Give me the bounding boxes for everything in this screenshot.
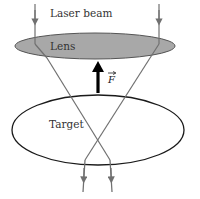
target-ellipse	[12, 95, 184, 165]
force-arrow	[92, 61, 104, 93]
laser-beam-label: Laser beam	[50, 7, 112, 19]
lens-label: Lens	[50, 40, 75, 52]
lens-ellipse	[15, 33, 175, 59]
target-label: Target	[49, 118, 84, 130]
force-label: F	[107, 74, 116, 85]
laser-lens-target-diagram: Laser beam Lens F Target	[0, 0, 200, 199]
